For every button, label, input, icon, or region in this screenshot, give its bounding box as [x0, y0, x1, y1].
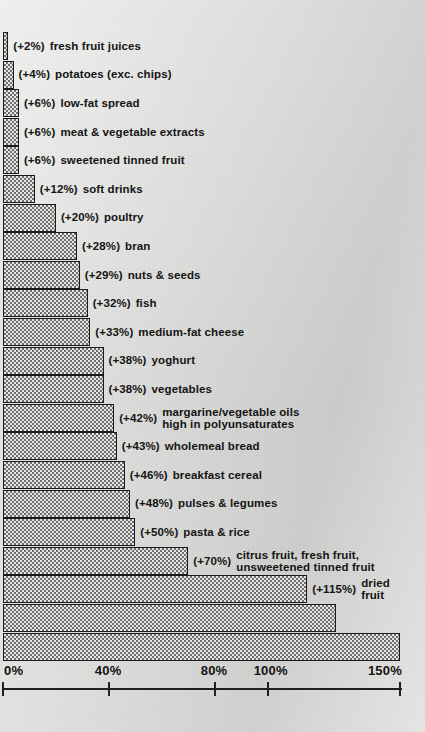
bar-bran	[3, 232, 77, 260]
bar-nuts-seeds	[3, 261, 80, 289]
bar-dried	[3, 575, 307, 603]
bar-low-fat-cheese	[3, 633, 400, 661]
bar-value-label: (+2%)	[13, 40, 45, 53]
bar-label: (+70%)citrus fruit, fresh fruit,unsweete…	[193, 549, 375, 573]
bar-soft-drinks	[3, 175, 35, 203]
x-axis-tick-label: 150%	[368, 663, 402, 678]
bar-value-label: (+42%)	[119, 412, 157, 424]
bar-name-label: bran	[125, 240, 150, 253]
bar-name-line1: wholemeal bread	[165, 441, 260, 453]
bar-wholemeal-bread	[3, 432, 117, 460]
bar-name-line1: poultry	[104, 212, 144, 224]
bar-name-label: wholemeal bread	[165, 441, 260, 454]
bar-label: (+46%)breakfast cereal	[130, 468, 262, 481]
bar-name-line1: fresh fruit juices	[50, 40, 141, 52]
bar-value-label: (+4%)	[19, 69, 51, 82]
bar-name-label: sweetened tinned fruit	[60, 155, 184, 168]
bar-name-line1: breakfast cereal	[173, 469, 262, 481]
bar-name-line1: medium-fat cheese	[138, 326, 244, 338]
x-axis-line	[3, 688, 402, 690]
bar-citrus-fruit-fresh-fruit	[3, 547, 188, 575]
bar-name-line1: margarine/vegetable oils	[162, 406, 299, 418]
bar-label: (+38%)vegetables	[109, 383, 212, 396]
x-axis-tick-label: 0%	[4, 663, 23, 678]
bar-name-label: pulses & legumes	[178, 498, 277, 511]
bar-pulses-legumes	[3, 490, 130, 518]
bar-label: (+6%)sweetened tinned fruit	[24, 154, 185, 167]
bar-poultry	[3, 204, 56, 232]
bar-value-label: (+70%)	[193, 555, 231, 567]
bar-name-line1: sweetened tinned fruit	[60, 155, 184, 167]
bar-fish	[3, 289, 88, 317]
bar-label: (+50%)pasta & rice	[140, 526, 249, 539]
bar-label: (+42%)margarine/vegetable oilshigh in po…	[119, 406, 299, 430]
bar-label: (+28%)bran	[82, 240, 150, 253]
bar-value-label: (+32%)	[93, 298, 131, 311]
bar-name-label: fish	[136, 298, 157, 311]
x-axis-tick	[2, 682, 4, 696]
bar-name-line2: high in polyunsaturates	[162, 418, 294, 430]
bar-name-label: yoghurt	[152, 355, 196, 368]
x-axis-tick	[267, 682, 269, 696]
x-axis-tick-label: 40%	[95, 663, 122, 678]
bar-name-line1: fish	[136, 298, 157, 310]
bar-value-label: (+43%)	[122, 441, 160, 454]
bar-label: (+20%)poultry	[61, 211, 144, 224]
bar-value-label: (+38%)	[109, 383, 147, 396]
bar-label: (+33%)medium-fat cheese	[95, 325, 244, 338]
bar-label: (+43%)wholemeal bread	[122, 440, 260, 453]
bar-name-line1: potatoes (exc. chips)	[55, 69, 172, 81]
bar-name-line1: citrus fruit, fresh fruit,	[236, 549, 359, 561]
bar-label: (+48%)pulses & legumes	[135, 497, 277, 510]
bar-value-label: (+33%)	[95, 326, 133, 339]
bar-value-label: (+28%)	[82, 240, 120, 253]
bar-label: (+38%)yoghurt	[109, 354, 196, 367]
bar-medium-fat-cheese	[3, 318, 90, 346]
bar-label: (+32%)fish	[93, 297, 157, 310]
bar-value-label: (+6%)	[24, 97, 56, 110]
bar-value-label: (+12%)	[40, 183, 78, 196]
bar-label: (+4%)potatoes (exc. chips)	[19, 68, 172, 81]
bar-name-label: potatoes (exc. chips)	[55, 69, 172, 82]
bar-value-label: (+6%)	[24, 126, 56, 139]
bar-label: (+6%)low-fat spread	[24, 97, 140, 110]
bar-name-label: poultry	[104, 212, 144, 225]
bar-vegetables	[3, 375, 104, 403]
bar-name-line1: meat & vegetable extracts	[60, 126, 204, 138]
bar-label: (+29%)nuts & seeds	[85, 268, 201, 281]
bar-sweetened-tinned-fruit	[3, 146, 19, 174]
bar-value-label: (+29%)	[85, 269, 123, 282]
bar-name-line1: pasta & rice	[183, 526, 249, 538]
bar-name-label: nuts & seeds	[128, 269, 201, 282]
bar-value-label: (+50%)	[140, 526, 178, 539]
bar-pasta-rice	[3, 518, 135, 546]
bar-value-label: (+46%)	[130, 469, 168, 482]
bar-value-label: (+115%)	[312, 583, 356, 595]
bar-chart: (+2%)fresh fruit juices(+4%)potatoes (ex…	[0, 0, 425, 732]
bar-value-label: (+6%)	[24, 155, 56, 168]
bar-name-line1: bran	[125, 240, 150, 252]
bar-name-label: soft drinks	[83, 183, 143, 196]
bar-name-label: fresh fruit juices	[50, 40, 141, 53]
bar-potatoes-exc-chips	[3, 61, 14, 89]
x-axis-tick-label: 80%	[201, 663, 228, 678]
bar-name-label: medium-fat cheese	[138, 326, 244, 339]
bar-name-label: driedfruit	[361, 577, 390, 601]
bar-name-line2: fruit	[361, 589, 384, 601]
bar-name-line2: unsweetened tinned fruit	[236, 561, 375, 573]
bar-name-label: breakfast cereal	[173, 469, 262, 482]
bar-fresh-fruit-juices	[3, 32, 8, 60]
bar-name-line1: low-fat spread	[60, 97, 139, 109]
bar-meat-vegetable-extracts	[3, 118, 19, 146]
bar-label: (+6%)meat & vegetable extracts	[24, 125, 205, 138]
bar-breakfast-cereal	[3, 461, 125, 489]
bar-low-fat-spread	[3, 89, 19, 117]
bar-name-label: low-fat spread	[60, 97, 139, 110]
x-axis-tick	[108, 682, 110, 696]
bar-name-line1: nuts & seeds	[128, 269, 201, 281]
bar-value-label: (+20%)	[61, 212, 99, 225]
x-axis: 0%40%80%100%150%	[0, 672, 425, 712]
bar-margarine-vegetable-oils	[3, 404, 114, 432]
bar-label: (+2%)fresh fruit juices	[13, 39, 141, 52]
bar-skimmed-milk	[3, 604, 336, 632]
